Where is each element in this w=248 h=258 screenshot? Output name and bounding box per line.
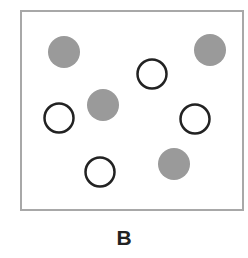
filled-circle [48,36,80,68]
open-circle [181,105,210,134]
panel-label: B [0,226,248,250]
circles-layer [0,0,248,258]
open-circle [138,60,167,89]
filled-circle [158,148,190,180]
filled-circle [194,34,226,66]
open-circle [86,158,115,187]
open-circle [45,104,74,133]
filled-circle [87,89,119,121]
